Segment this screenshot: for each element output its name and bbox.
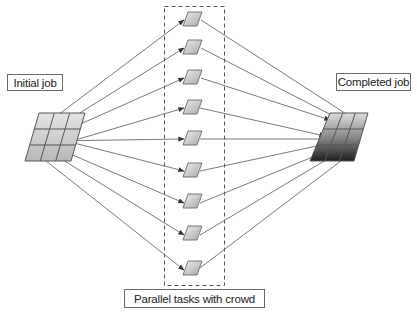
completed-job-label: Completed job — [336, 73, 411, 91]
task-node-9 — [183, 261, 202, 275]
parallel-tasks — [183, 12, 202, 275]
task-node-7 — [183, 194, 202, 208]
task-node-5 — [183, 131, 202, 145]
task-node-4 — [183, 100, 202, 114]
task-node-8 — [183, 226, 202, 240]
initial-job-label: Initial job — [7, 74, 63, 91]
initial-job-grid — [25, 113, 85, 161]
task-node-3 — [183, 70, 202, 84]
parallel-tasks-label: Parallel tasks with crowd — [124, 289, 265, 308]
completed-job-grid — [310, 113, 368, 161]
crowd-workflow-diagram — [0, 0, 417, 315]
task-node-1 — [183, 12, 202, 26]
task-node-6 — [183, 163, 202, 177]
task-node-2 — [183, 40, 202, 54]
